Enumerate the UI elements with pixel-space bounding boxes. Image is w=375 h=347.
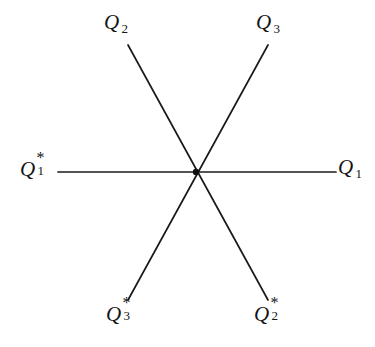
label-q3-base: Q (256, 10, 271, 34)
label-q2-star-base: Q (254, 302, 269, 326)
label-q3-subscript: 3 (273, 21, 280, 36)
label-q2-star-subscript: 2 (271, 309, 278, 322)
label-q2-subscript: 2 (121, 21, 128, 36)
label-q1-base: Q (338, 155, 353, 179)
label-q1: Q1 (338, 157, 360, 178)
label-q1-star-base: Q (20, 157, 35, 181)
star-diagram-canvas (0, 0, 375, 347)
label-q2-star: Q*2 (254, 300, 281, 325)
label-q1-star-subscript: 1 (37, 164, 44, 177)
label-q2: Q2 (104, 12, 126, 33)
label-q3-star-subscript: 3 (123, 309, 130, 322)
star-diagram-figure: Q2 Q3 Q*1 Q1 Q*3 Q*2 (0, 0, 375, 347)
label-q3: Q3 (256, 12, 278, 33)
label-q1-star: Q*1 (20, 155, 47, 180)
label-q1-subscript: 1 (355, 166, 362, 181)
center-point-dot (193, 169, 199, 175)
label-q3-star: Q*3 (106, 300, 133, 325)
label-q1-star-affixes: *1 (36, 155, 47, 176)
label-q2-star-affixes: *2 (270, 300, 281, 321)
label-q3-star-affixes: *3 (122, 300, 133, 321)
label-q2-base: Q (104, 10, 119, 34)
label-q3-star-base: Q (106, 302, 121, 326)
